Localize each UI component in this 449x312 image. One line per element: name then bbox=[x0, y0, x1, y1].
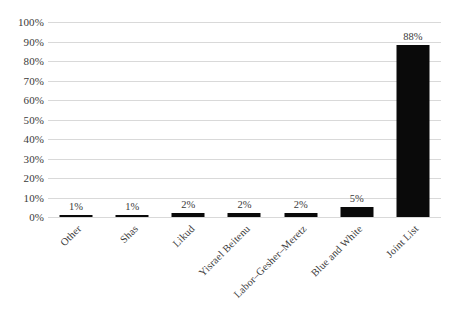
x-tick-label: Joint List bbox=[384, 223, 421, 260]
y-tick-label: 40% bbox=[0, 134, 44, 145]
x-tick-label: Other bbox=[59, 223, 84, 248]
y-tick-label: 10% bbox=[0, 193, 44, 204]
y-tick-label: 100% bbox=[0, 17, 44, 28]
bar-slot: 1% bbox=[48, 22, 104, 217]
x-tick-label: Shas bbox=[118, 223, 140, 245]
y-tick-label: 90% bbox=[0, 37, 44, 48]
y-tick-label: 50% bbox=[0, 115, 44, 126]
x-tick-label: Yisrael Beitenu bbox=[197, 223, 252, 278]
bar-value-label: 2% bbox=[237, 199, 251, 210]
bar-chart: 100%90%80%70%60%50%40%30%20%10%0% 1%1%2%… bbox=[0, 0, 449, 312]
bar-slot: 2% bbox=[273, 22, 329, 217]
bar-slot: 88% bbox=[385, 22, 441, 217]
bar-value-label: 2% bbox=[181, 199, 195, 210]
bar-value-label: 88% bbox=[403, 31, 422, 42]
x-tick-label: Likud bbox=[170, 223, 196, 249]
y-tick-label: 80% bbox=[0, 56, 44, 67]
bars-layer: 1%1%2%2%2%5%88% bbox=[48, 22, 441, 217]
x-axis: OtherShasLikudYisrael BeitenuLabor–Geshe… bbox=[48, 217, 441, 312]
bar-value-label: 1% bbox=[125, 201, 139, 212]
y-tick-label: 20% bbox=[0, 173, 44, 184]
y-tick-label: 30% bbox=[0, 154, 44, 165]
bar-value-label: 5% bbox=[350, 193, 364, 204]
bar-value-label: 1% bbox=[69, 201, 83, 212]
bar-slot: 2% bbox=[216, 22, 272, 217]
x-tick-label: Blue and White bbox=[309, 223, 365, 279]
bar-value-label: 2% bbox=[294, 199, 308, 210]
bar-slot: 1% bbox=[104, 22, 160, 217]
y-tick-label: 60% bbox=[0, 95, 44, 106]
y-axis: 100%90%80%70%60%50%40%30%20%10%0% bbox=[0, 0, 44, 312]
bar-slot: 5% bbox=[329, 22, 385, 217]
y-tick-label: 70% bbox=[0, 76, 44, 87]
bar[interactable] bbox=[396, 45, 429, 217]
bar-slot: 2% bbox=[160, 22, 216, 217]
y-tick-label: 0% bbox=[0, 212, 44, 223]
bar[interactable] bbox=[340, 207, 373, 217]
